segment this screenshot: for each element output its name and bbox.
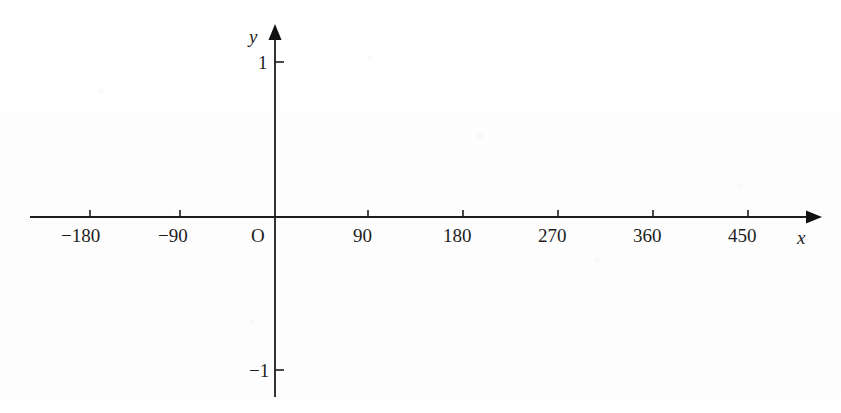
coordinate-axes-figure: −180 −90 90 180 270 360 450 1 −1 O y x	[0, 0, 841, 413]
x-axis-tick-marks	[90, 210, 748, 217]
x-tick-label: 360	[633, 226, 662, 245]
x-axis-label: x	[797, 228, 805, 247]
origin-label: O	[251, 226, 265, 245]
y-tick-label: −1	[249, 361, 269, 380]
y-axis-arrowhead	[269, 24, 282, 40]
axes-drawing	[0, 0, 841, 413]
y-axis-tick-marks	[275, 62, 284, 370]
y-axis-label: y	[249, 27, 257, 46]
y-tick-label: 1	[258, 53, 268, 72]
x-tick-label: 270	[538, 226, 567, 245]
x-axis-arrowhead	[806, 211, 822, 224]
x-tick-label: 180	[443, 226, 472, 245]
x-tick-label: 450	[728, 226, 757, 245]
x-tick-label: −90	[158, 226, 188, 245]
x-tick-label: 90	[353, 226, 372, 245]
x-tick-label: −180	[61, 226, 100, 245]
